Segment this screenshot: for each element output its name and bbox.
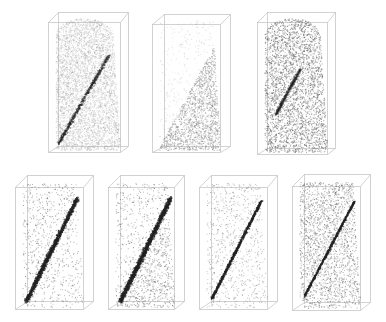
panel-4 bbox=[15, 175, 97, 313]
panel-7 bbox=[292, 174, 374, 314]
panel-3 bbox=[257, 12, 341, 156]
panel-5 bbox=[108, 175, 188, 313]
point-cloud-5 bbox=[108, 175, 188, 313]
panel-1 bbox=[48, 12, 134, 154]
point-cloud-6 bbox=[199, 175, 281, 313]
point-cloud-2 bbox=[152, 14, 234, 154]
panel-2 bbox=[152, 14, 234, 154]
panel-6 bbox=[199, 175, 281, 313]
point-cloud-3 bbox=[257, 12, 341, 156]
point-cloud-1 bbox=[48, 12, 134, 154]
point-cloud-4 bbox=[15, 175, 97, 313]
point-cloud-7 bbox=[292, 174, 374, 314]
